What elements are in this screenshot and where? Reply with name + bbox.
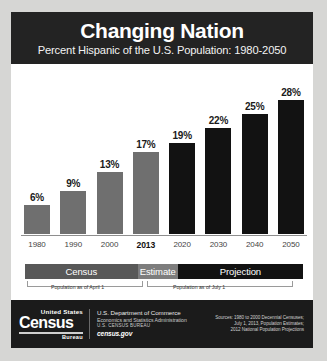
x-tick-2030: 2030	[204, 240, 232, 254]
bar	[205, 128, 231, 234]
census-gov-link[interactable]: census.gov	[97, 330, 187, 339]
bar	[169, 143, 195, 234]
bar-column: 17%	[132, 76, 160, 234]
dept-census-bureau: U.S. CENSUS BUREAU	[97, 323, 187, 329]
dept-commerce: U.S. Department of Commerce	[97, 309, 187, 317]
bar-value-label: 19%	[172, 130, 191, 141]
x-tick-2040: 2040	[241, 240, 269, 254]
band-census: Census	[25, 264, 138, 279]
band-footnotes: Population as of April 1 Population as o…	[25, 281, 303, 295]
sources-block: Sources: 1980 to 2000 Decennial Censuses…	[215, 315, 304, 334]
poster-footer: United States Census Bureau U.S. Departm…	[11, 300, 313, 348]
census-bureau-logo: United States Census Bureau	[19, 308, 83, 341]
bar-column: 13%	[96, 76, 124, 234]
x-tick-2000: 2000	[96, 240, 124, 254]
logo-census-wordmark: Census	[19, 315, 83, 331]
logo-bureau: Bureau	[62, 334, 83, 341]
note-july: Population as of July 1	[173, 284, 225, 290]
bar-value-label: 28%	[281, 87, 300, 98]
category-bands: Census Estimate Projection	[25, 264, 303, 279]
x-tick-2050: 2050	[277, 240, 305, 254]
bar-value-label: 6%	[30, 192, 44, 203]
bar	[278, 100, 304, 234]
x-tick-2013: 2013	[132, 240, 160, 254]
bar	[24, 205, 50, 234]
band-estimate: Estimate	[138, 264, 178, 279]
x-tick-2020: 2020	[168, 240, 196, 254]
bar-series: 6%9%13%17%19%22%25%28%	[23, 76, 305, 234]
bar-column: 22%	[204, 76, 232, 234]
bar-column: 28%	[277, 76, 305, 234]
bar-value-label: 13%	[100, 159, 119, 170]
bar-column: 25%	[241, 76, 269, 234]
chart-plot-area: 6%9%13%17%19%22%25%28%	[23, 72, 305, 234]
footer-divider	[89, 309, 90, 339]
poster-header: Changing Nation Percent Hispanic of the …	[11, 12, 313, 64]
band-projection: Projection	[178, 264, 303, 279]
bar-column: 6%	[23, 76, 51, 234]
bar-value-label: 22%	[209, 115, 228, 126]
bar	[242, 114, 268, 234]
bar	[97, 172, 123, 234]
x-tick-1990: 1990	[59, 240, 87, 254]
page-title: Changing Nation	[80, 19, 243, 42]
bar-value-label: 17%	[136, 139, 155, 150]
infographic-poster: Changing Nation Percent Hispanic of the …	[11, 12, 313, 348]
department-block: U.S. Department of Commerce Economics an…	[97, 309, 187, 339]
bar	[60, 191, 86, 234]
page-subtitle: Percent Hispanic of the U.S. Population:…	[38, 44, 287, 57]
source-line: 2012 National Population Projections	[215, 327, 304, 333]
x-tick-1980: 1980	[23, 240, 51, 254]
source-line: Sources: 1980 to 2000 Decennial Censuses…	[215, 315, 304, 321]
bar-chart: 6%9%13%17%19%22%25%28% 19801990200020132…	[11, 64, 313, 262]
category-bands-section: Census Estimate Projection Population as…	[11, 262, 313, 300]
bar-value-label: 9%	[66, 178, 80, 189]
note-april: Population as of April 1	[51, 284, 104, 290]
dept-esa: Economics and Statistics Administration	[97, 317, 187, 324]
bar-column: 19%	[168, 76, 196, 234]
bar-value-label: 25%	[245, 101, 264, 112]
x-axis-line	[21, 235, 307, 236]
bar-column: 9%	[59, 76, 87, 234]
x-axis-tick-labels: 19801990200020132020203020402050	[23, 240, 305, 254]
bar	[133, 152, 159, 234]
